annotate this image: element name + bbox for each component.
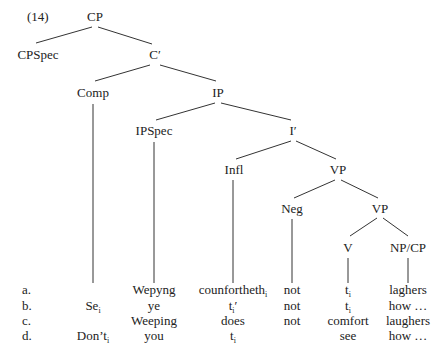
node-c-bar: C′ — [149, 48, 161, 62]
cell-comp-text: Se — [85, 298, 98, 313]
cell-infl-prime: ′ — [235, 298, 238, 313]
cell-npcp: laghers — [389, 283, 427, 297]
node-i-bar: I′ — [289, 124, 296, 138]
cell-npcp: how … — [389, 299, 428, 313]
cell-comp-text: Don’t — [77, 328, 107, 343]
node-ipspec: IPSpec — [136, 124, 173, 138]
tree-branches — [0, 0, 440, 357]
cell-comp-index: i — [98, 306, 100, 315]
cell-ipspec: Wepyng — [133, 283, 176, 297]
cell-npcp: how … — [389, 329, 428, 343]
row-letter: a. — [22, 283, 31, 297]
cell-comp: Don’ti — [77, 329, 109, 348]
cell-infl: ti — [230, 329, 236, 348]
node-infl: Infl — [225, 163, 244, 177]
cell-comp-index: i — [107, 336, 109, 345]
node-cpspec: CPSpec — [17, 48, 58, 62]
cell-ipspec: Weeping — [131, 314, 177, 328]
cell-infl: does — [221, 314, 245, 328]
node-neg: Neg — [281, 202, 303, 216]
row-letter: d. — [22, 329, 32, 343]
example-number: (14) — [27, 10, 49, 24]
cell-npcp: laughers — [386, 314, 430, 328]
cell-neg: not — [284, 283, 301, 297]
cell-ipspec: you — [144, 329, 164, 343]
row-letter: b. — [22, 299, 32, 313]
cell-infl-index: i — [234, 336, 236, 345]
cell-v: comfort — [327, 314, 368, 328]
row-letter: c. — [22, 314, 31, 328]
cell-infl-index: i — [265, 290, 267, 299]
cell-neg: not — [284, 299, 301, 313]
node-v: V — [343, 241, 352, 255]
node-ip: IP — [212, 86, 224, 100]
cell-neg: not — [284, 314, 301, 328]
cell-infl-text: counfortheth — [199, 282, 265, 297]
cell-v: see — [340, 329, 357, 343]
node-np-cp: NP/CP — [390, 241, 426, 255]
cell-ipspec: ye — [148, 299, 160, 313]
cell-comp: Sei — [85, 299, 100, 318]
node-cp: CP — [87, 10, 103, 24]
node-vp-lower: VP — [372, 202, 389, 216]
node-comp: Comp — [77, 86, 109, 100]
node-vp-upper: VP — [330, 163, 347, 177]
